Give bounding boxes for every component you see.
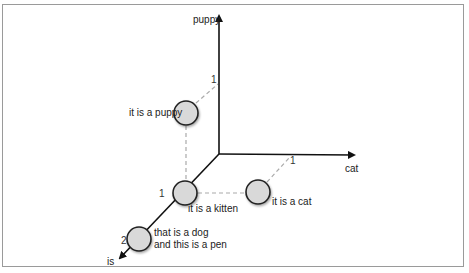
point-label-dog-line1: that is a dog: [154, 227, 208, 238]
point-label-kitten: it is a kitten: [188, 203, 238, 214]
point-label-puppy: it is a puppy: [129, 107, 182, 118]
cat-tick-1: 1: [290, 155, 296, 166]
point-label-cat: it is a cat: [272, 196, 312, 207]
point-kitten: [173, 181, 197, 205]
point-label-dog-line2: and this is a pen: [154, 239, 227, 250]
guide-lines: [186, 84, 290, 193]
puppy-projection-line: [196, 84, 218, 103]
axes: [120, 16, 354, 258]
cat-axis-label: cat: [345, 163, 359, 174]
puppy-axis-label: puppy: [193, 14, 220, 25]
cat-axis: [219, 154, 354, 155]
vector-space-diagram: puppy cat is 1 1 1 2 it is a puppy it is…: [0, 0, 469, 273]
is-tick-1: 1: [159, 188, 165, 199]
is-axis-label: is: [107, 256, 114, 267]
puppy-tick-1: 1: [211, 74, 217, 85]
point-cat: [246, 180, 270, 204]
cat-projection-line: [267, 157, 290, 182]
point-dog: [127, 227, 151, 251]
is-tick-2: 2: [121, 235, 127, 246]
